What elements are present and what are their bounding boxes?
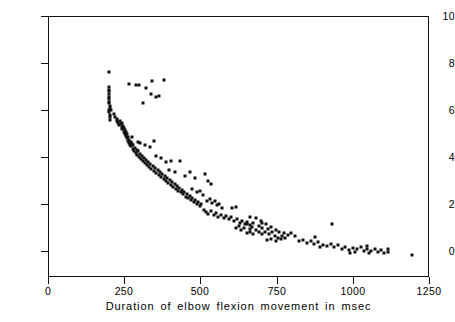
data-point (344, 245, 347, 248)
data-point (411, 253, 414, 256)
data-point (220, 207, 223, 210)
data-point (127, 83, 130, 86)
data-point (275, 240, 278, 243)
data-point (314, 235, 317, 238)
data-point (265, 223, 268, 226)
data-point (368, 252, 371, 255)
data-point (209, 183, 212, 186)
data-point (278, 230, 281, 233)
data-point (290, 232, 293, 235)
data-point (218, 202, 221, 205)
x-tick-label: 500 (177, 286, 223, 297)
data-point (215, 211, 218, 214)
data-point (301, 239, 304, 242)
data-point (269, 237, 272, 240)
y-tick-mark (41, 110, 48, 111)
data-point (251, 222, 254, 225)
data-point (107, 70, 110, 73)
data-point (169, 160, 172, 163)
data-point (198, 205, 201, 208)
data-point (200, 202, 203, 205)
data-point (112, 112, 115, 115)
data-point (153, 139, 156, 142)
data-point (282, 232, 285, 235)
data-point (184, 174, 187, 177)
data-point (191, 188, 194, 191)
x-tick-label: 250 (101, 286, 147, 297)
x-axis-title: Duration of elbow flexion movement in ms… (48, 300, 429, 312)
data-point (284, 236, 287, 239)
data-point (261, 226, 264, 229)
x-tick-label: 1250 (406, 286, 452, 297)
data-point (259, 219, 262, 222)
data-point (252, 232, 255, 235)
data-point (333, 246, 336, 249)
y-tick-mark (41, 204, 48, 205)
data-point (294, 234, 297, 237)
data-point (354, 250, 357, 253)
data-point (254, 217, 257, 220)
data-point (144, 86, 147, 89)
data-point (280, 238, 283, 241)
data-point (150, 92, 153, 95)
data-point (251, 226, 254, 229)
x-tick-mark (429, 277, 430, 284)
data-point (165, 160, 168, 163)
data-point (213, 200, 216, 203)
x-tick-label: 750 (254, 286, 300, 297)
data-point (141, 101, 144, 104)
data-point (351, 246, 354, 249)
data-point (382, 252, 385, 255)
data-point (340, 247, 343, 250)
data-point (325, 245, 328, 248)
data-point (297, 240, 300, 243)
x-tick-mark (353, 277, 354, 284)
scatter-points (49, 17, 428, 276)
data-point (149, 145, 152, 148)
data-point (198, 189, 201, 192)
plot-area (48, 16, 429, 277)
data-point (151, 79, 154, 82)
data-point (130, 135, 133, 138)
data-point (204, 172, 207, 175)
data-point (245, 223, 248, 226)
data-point (261, 222, 264, 225)
data-point (331, 223, 334, 226)
data-point (386, 247, 389, 250)
data-point (208, 198, 211, 201)
x-tick-mark (200, 277, 201, 284)
data-point (359, 246, 362, 249)
data-point (179, 159, 182, 162)
data-point (313, 243, 316, 246)
data-point (243, 226, 246, 229)
data-point (365, 245, 368, 248)
data-point (348, 252, 351, 255)
data-point (316, 240, 319, 243)
y-tick-mark (41, 63, 48, 64)
data-point (265, 239, 268, 242)
data-point (309, 239, 312, 242)
data-point (193, 176, 196, 179)
data-point (305, 241, 308, 244)
x-tick-label: 1000 (330, 286, 376, 297)
data-point (109, 119, 112, 122)
data-point (158, 94, 161, 97)
data-point (209, 209, 212, 212)
data-point (249, 215, 252, 218)
data-point (329, 243, 332, 246)
data-point (207, 212, 210, 215)
data-point (144, 143, 147, 146)
figure: 10 8 6 4 2 0 0 250 500 750 1000 1250 Dur… (0, 0, 455, 322)
x-tick-mark (124, 277, 125, 284)
data-point (110, 108, 113, 111)
data-point (280, 234, 283, 237)
data-point (234, 206, 237, 209)
y-tick-mark (41, 157, 48, 158)
data-point (230, 206, 233, 209)
data-point (173, 171, 176, 174)
data-point (260, 233, 263, 236)
x-tick-mark (48, 277, 49, 284)
data-point (263, 230, 266, 233)
data-point (386, 251, 389, 254)
x-tick-label: 0 (25, 286, 71, 297)
